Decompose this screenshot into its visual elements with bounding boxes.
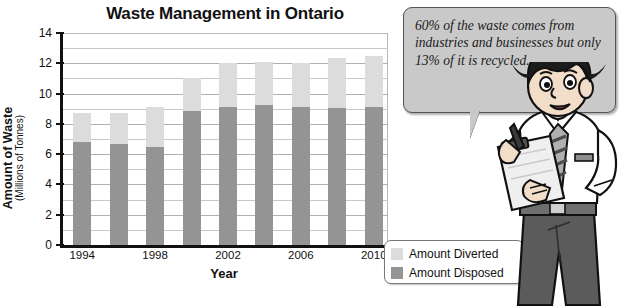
bar	[365, 33, 383, 245]
x-tick-label: 2002	[215, 249, 241, 261]
legend-swatch-disposed	[391, 267, 403, 279]
bar-segment-disposed	[183, 111, 201, 245]
x-tick-label: 2010	[361, 249, 387, 261]
bar-segment-disposed	[110, 144, 128, 245]
y-axis-tick-labels: 02468101214	[6, 33, 60, 245]
y-tick-label: 0	[6, 238, 60, 252]
bar-segment-disposed	[328, 108, 346, 245]
y-tick-label: 10	[6, 87, 60, 101]
bar	[219, 33, 237, 245]
bar-segment-disposed	[365, 107, 383, 245]
y-tick-label: 8	[6, 117, 60, 131]
bar-segment-diverted	[73, 113, 91, 143]
bar-chart: Waste Management in Ontario Amount of Wa…	[0, 0, 392, 306]
y-tick-label: 12	[6, 56, 60, 70]
bar-segment-disposed	[146, 147, 164, 245]
bar	[146, 33, 164, 245]
x-tick-label: 1994	[69, 249, 95, 261]
bar-segment-disposed	[73, 142, 91, 245]
chart-page: Waste Management in Ontario Amount of Wa…	[0, 0, 627, 306]
bar-segment-diverted	[183, 78, 201, 111]
bar	[328, 33, 346, 245]
y-tick-label: 4	[6, 177, 60, 191]
legend-label-diverted: Amount Diverted	[409, 247, 498, 261]
bar	[255, 33, 273, 245]
bar-segment-diverted	[255, 62, 273, 105]
bar-segment-diverted	[146, 107, 164, 146]
bar	[73, 33, 91, 245]
bar-segment-disposed	[219, 107, 237, 245]
x-axis-line	[60, 245, 388, 248]
cartoon-man-illustration	[490, 62, 627, 306]
x-tick-label: 1998	[142, 249, 168, 261]
bar-segment-diverted	[219, 63, 237, 107]
bar-segment-diverted	[328, 58, 346, 108]
y-tick-label: 2	[6, 208, 60, 222]
plot-area: 02468101214 19941998200220062010	[60, 33, 388, 245]
bar-segment-disposed	[255, 105, 273, 245]
y-tick-label: 6	[6, 147, 60, 161]
chart-title: Waste Management in Ontario	[60, 4, 390, 24]
y-tick-label: 14	[6, 26, 60, 40]
x-tick-label: 2006	[288, 249, 314, 261]
bar-segment-diverted	[292, 63, 310, 107]
bar-segment-diverted	[365, 56, 383, 107]
x-axis-label: Year	[60, 266, 388, 281]
bar-segment-disposed	[292, 107, 310, 245]
bar-segment-diverted	[110, 113, 128, 144]
bar	[292, 33, 310, 245]
bar	[183, 33, 201, 245]
bar	[110, 33, 128, 245]
legend-swatch-diverted	[391, 248, 403, 260]
